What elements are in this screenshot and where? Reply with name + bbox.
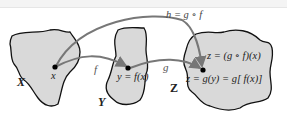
point-z-label-2: z = g(y) = g[ f(x)] <box>186 74 262 85</box>
set-z-label: Z <box>170 82 178 94</box>
arrow-f-label: f <box>94 64 97 75</box>
arrow-g-label: g <box>163 62 169 73</box>
point-y <box>125 65 130 70</box>
set-y-label: Y <box>98 96 105 108</box>
arrow-h-label: h = g ∘ f <box>166 10 202 21</box>
point-x-label: x <box>51 71 56 82</box>
set-x-label: X <box>17 76 25 88</box>
point-z-label-1: z = (g ∘ f)(x) <box>207 51 261 62</box>
point-x <box>52 64 57 69</box>
set-x-region <box>10 30 80 106</box>
point-y-label: y = f(x) <box>117 72 149 83</box>
point-z <box>200 67 205 72</box>
